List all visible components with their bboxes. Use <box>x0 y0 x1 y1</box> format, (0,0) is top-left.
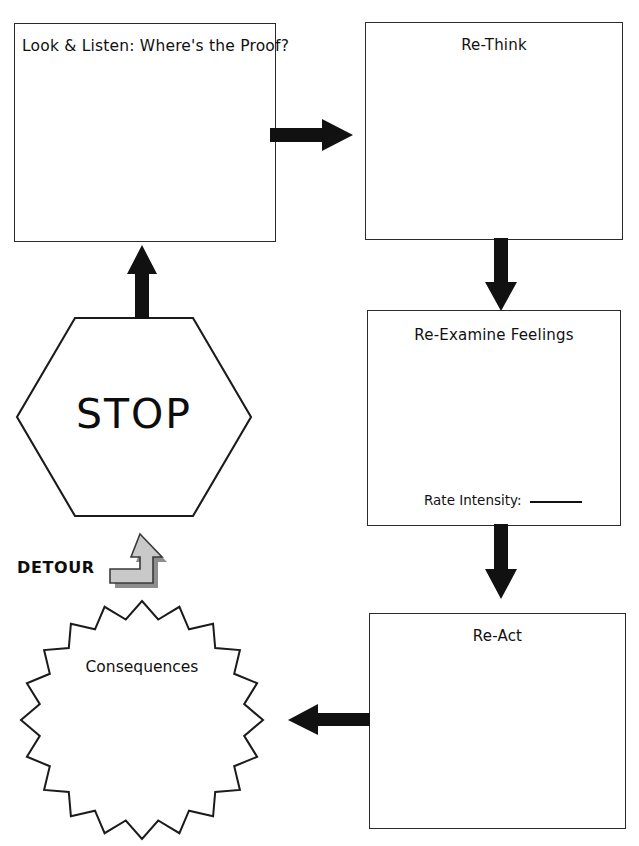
arrow-right-look-to-rethink-icon <box>270 118 354 152</box>
box-re-examine-feelings[interactable]: Re-Examine Feelings Rate Intensity: <box>367 310 621 526</box>
detour-group: DETOUR <box>17 530 187 590</box>
arrow-left-react-to-consequences-icon <box>288 704 370 736</box>
box-look-listen-title: Look & Listen: Where's the Proof? <box>22 37 271 55</box>
worksheet-canvas: Look & Listen: Where's the Proof? Re-Thi… <box>0 0 639 846</box>
box-look-listen[interactable]: Look & Listen: Where's the Proof? <box>14 23 276 242</box>
arrow-down-feelings-to-react-icon <box>484 524 518 600</box>
consequences-label: Consequences <box>18 658 266 676</box>
starburst-shape <box>18 598 266 842</box>
box-re-act-title: Re-Act <box>370 627 625 645</box>
arrow-down-rethink-to-feelings-icon <box>484 238 518 312</box>
box-re-think[interactable]: Re-Think <box>365 22 623 240</box>
arrow-up-stop-to-look-icon <box>126 244 158 320</box>
stop-sign[interactable]: STOP <box>15 316 253 518</box>
consequences-burst[interactable]: Consequences <box>18 598 266 842</box>
detour-label: DETOUR <box>17 558 95 577</box>
rate-intensity-row: Rate Intensity: <box>424 492 582 508</box>
box-re-examine-feelings-title: Re-Examine Feelings <box>368 326 620 344</box>
stop-label: STOP <box>15 394 253 435</box>
rate-intensity-input[interactable] <box>530 501 582 503</box>
box-re-think-title: Re-Think <box>366 36 622 54</box>
detour-up-arrow-icon <box>104 530 168 588</box>
box-re-act[interactable]: Re-Act <box>369 613 626 829</box>
rate-intensity-label: Rate Intensity: <box>424 492 522 508</box>
